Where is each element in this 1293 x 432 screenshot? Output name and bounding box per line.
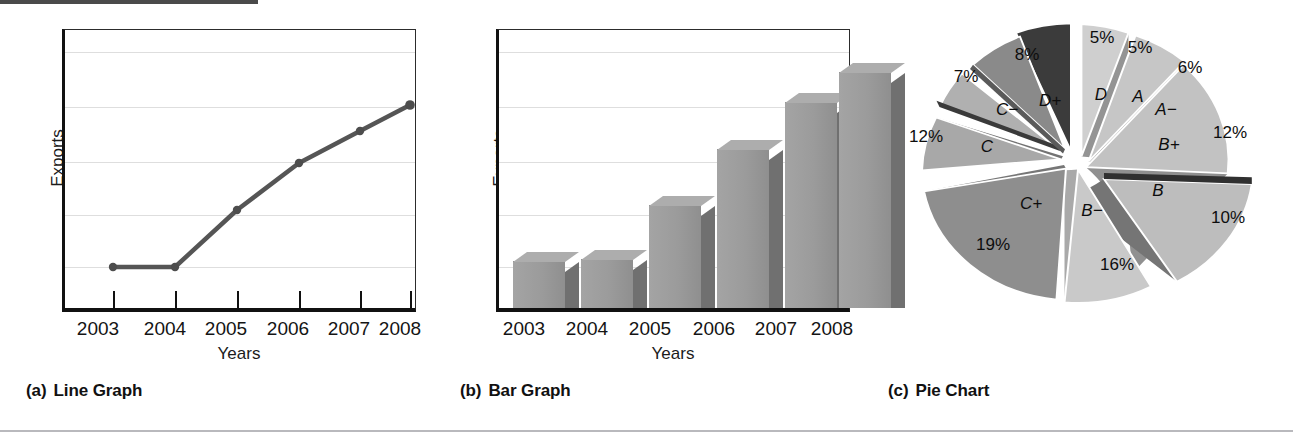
pie-pct-A-minus: 6%	[1178, 58, 1203, 78]
pie-label-B-plus: B+	[1158, 135, 1179, 155]
pie-label-B: B	[1152, 181, 1163, 201]
bar-side-face	[565, 262, 579, 308]
data-point	[233, 206, 241, 214]
pie-pct-B: 10%	[1211, 208, 1245, 228]
data-point	[109, 263, 117, 271]
panel-pie-chart: 5% D 5% A 6% A− 12% B+ 10% B 16% B− 19% …	[870, 0, 1293, 432]
pie-label-C: C	[981, 137, 993, 157]
x-tick-label: 2008	[378, 318, 422, 340]
data-point	[356, 127, 364, 135]
bar-2004	[581, 250, 633, 308]
bar-2005	[649, 196, 701, 308]
pie-pct-C-plus: 19%	[976, 235, 1010, 255]
bar-top-face	[649, 196, 715, 206]
bar-top-face	[513, 252, 579, 262]
bar-graph-plot-area	[496, 29, 850, 312]
caption-letter: (b)	[460, 381, 481, 400]
data-point	[405, 100, 415, 110]
line-graph-caption: (a)Line Graph	[26, 381, 142, 401]
x-tick-label: 2005	[618, 318, 682, 340]
bar-front-face	[649, 205, 701, 308]
pie-label-C-plus: C+	[1020, 194, 1042, 214]
caption-text: Pie Chart	[915, 381, 989, 400]
pie-pct-C-minus: 7%	[954, 67, 979, 87]
pie-pct-D: 5%	[1090, 28, 1115, 48]
bar-front-face	[513, 261, 565, 308]
caption-text: Bar Graph	[488, 381, 570, 400]
bar-2003	[513, 252, 565, 308]
x-tick-label: 2006	[682, 318, 746, 340]
x-tick-label: 2008	[806, 318, 858, 340]
line-graph-series	[65, 30, 417, 309]
bar-top-face	[581, 250, 647, 260]
bar-2006	[717, 140, 769, 308]
x-tick-label: 2006	[256, 318, 320, 340]
pie-chart-caption: (c)Pie Chart	[888, 381, 989, 401]
bar-front-face	[581, 259, 633, 308]
pie-label-D-plus: D+	[1039, 91, 1061, 111]
line-graph-plot-area	[62, 29, 416, 312]
data-point	[171, 263, 179, 271]
pie-label-B-minus: B−	[1081, 201, 1102, 221]
panel-bar-graph: Exports	[450, 0, 870, 432]
pie-pct-A: 5%	[1128, 38, 1153, 58]
line-graph-x-tick-labels: 2003 2004 2005 2006 2007 2008	[62, 318, 422, 340]
bar-graph-x-axis-title: Years	[496, 344, 850, 364]
pie-pct-B-minus: 16%	[1100, 255, 1134, 275]
line-graph-x-axis-title: Years	[62, 344, 416, 364]
x-tick-label: 2003	[62, 318, 134, 340]
bar-side-face	[769, 150, 783, 308]
bar-side-face	[701, 206, 715, 308]
bar-front-face	[717, 149, 769, 308]
panel-line-graph: Exports 2003 2004 2005 2006 2007 2008 Ye…	[0, 0, 450, 432]
x-tick-label: 2004	[134, 318, 196, 340]
x-tick-label: 2003	[492, 318, 556, 340]
line-series-path	[113, 105, 410, 267]
pie-pct-B-plus: 12%	[1213, 123, 1247, 143]
bar-graph-caption: (b)Bar Graph	[460, 381, 571, 401]
bar-front-face	[785, 102, 837, 308]
data-point	[295, 159, 303, 167]
caption-text: Line Graph	[53, 381, 142, 400]
bar-top-face	[717, 140, 783, 150]
pie-chart-graphic: 5% D 5% A 6% A− 12% B+ 10% B 16% B− 19% …	[870, 0, 1293, 340]
caption-letter: (c)	[888, 381, 908, 400]
bar-graph-x-tick-labels: 2003 2004 2005 2006 2007 2008	[492, 318, 862, 340]
pie-label-A: A	[1132, 87, 1143, 107]
pie-pct-D-plus: 8%	[1015, 45, 1040, 65]
x-tick-label: 2005	[196, 318, 256, 340]
x-tick-label: 2004	[556, 318, 618, 340]
gridline	[499, 52, 849, 53]
pie-label-A-minus: A−	[1155, 100, 1176, 120]
x-tick-label: 2007	[320, 318, 378, 340]
bar-2007	[785, 93, 837, 308]
pie-label-C-minus: C−	[996, 100, 1018, 120]
pie-label-D: D	[1095, 85, 1107, 105]
caption-letter: (a)	[26, 381, 46, 400]
pie-svg	[870, 0, 1293, 340]
pie-pct-C: 12%	[909, 127, 943, 147]
x-tick-label: 2007	[746, 318, 806, 340]
